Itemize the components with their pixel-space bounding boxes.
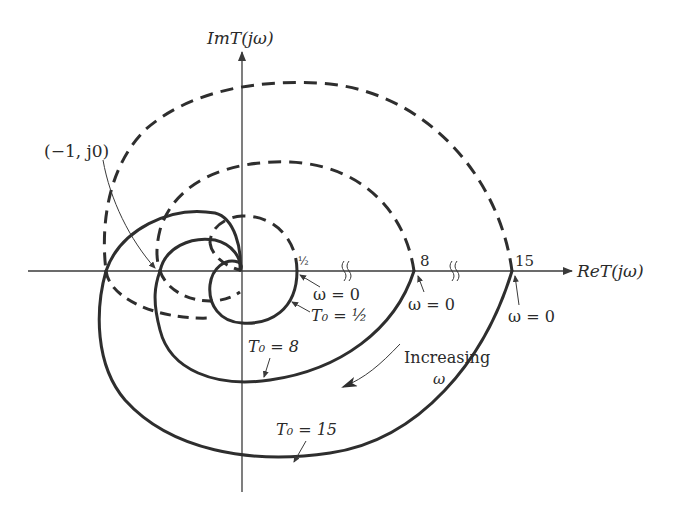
t0-half-label: T₀ = ½ <box>311 306 367 325</box>
increasing-label: Increasing <box>404 348 490 367</box>
omega-zero-8-label: ω = 0 <box>408 295 455 314</box>
omega-zero-half-label: ω = 0 <box>313 285 360 304</box>
increasing-omega-label: ω <box>433 370 445 388</box>
point-minus-one-leader <box>103 160 155 268</box>
real-axis-label: ReT(jω) <box>576 261 644 281</box>
tick-label-8: 8 <box>420 252 430 270</box>
omega-zero-15-label: ω = 0 <box>508 307 555 326</box>
point-minus-one-label: (−1, j0) <box>44 141 109 161</box>
nyquist-diagram: (−1, j0) ImT(jω) ReT(jω) ½ 8 15 ω = 0 T₀… <box>0 0 678 509</box>
curve-t0-8-inner <box>106 212 240 271</box>
curve-t0-half <box>210 216 297 323</box>
tick-label-half: ½ <box>298 255 309 268</box>
t0-8-label: T₀ = 8 <box>248 337 299 356</box>
t0-15-label: T₀ = 15 <box>276 420 337 439</box>
imag-axis-label: ImT(jω) <box>206 28 274 48</box>
tick-label-15: 15 <box>515 252 534 270</box>
